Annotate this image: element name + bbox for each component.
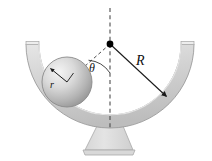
- diagram-canvas: [0, 0, 212, 161]
- bowl-left-rim: [26, 42, 39, 45]
- physics-diagram-sphere-in-bowl: R θ r: [0, 0, 212, 161]
- bowl-stand-base: [83, 150, 135, 155]
- bowl-stand: [85, 126, 133, 150]
- bowl-right-rim: [181, 42, 194, 45]
- bowl-radius-arrow: [110, 44, 167, 97]
- label-r: r: [50, 80, 54, 90]
- label-theta: θ: [89, 62, 95, 74]
- center-of-curvature-point: [107, 41, 114, 48]
- label-R: R: [136, 54, 145, 68]
